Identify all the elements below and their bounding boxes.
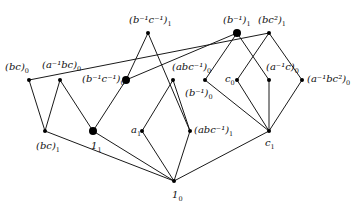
node-b-1c-1_1	[146, 31, 150, 35]
node-label-abc-1_1: (abc⁻¹)1	[194, 125, 233, 138]
edge-c0-c1	[237, 80, 269, 131]
node-label-c0: c0	[225, 74, 235, 87]
node-bc2_1	[267, 31, 271, 35]
node-a-1bc2_0	[300, 78, 304, 82]
edge-a-1bc0-one1	[60, 80, 93, 131]
graph-diagram: (bc)0(a⁻¹bc)0(bc)111(b⁻¹c⁻¹)1(b⁻¹c⁻¹)0(a…	[0, 0, 356, 207]
node-c1	[267, 129, 271, 133]
edge-a-1bc0-bc1	[45, 80, 60, 131]
node-bc0	[27, 78, 31, 82]
node-b-1_1	[233, 29, 241, 37]
node-label-b-1c-1_0: (b⁻¹c⁻¹)0	[82, 74, 125, 87]
node-label-bc2_1: (bc²)1	[258, 15, 286, 28]
node-one1	[89, 127, 97, 135]
node-label-a1: a1	[131, 125, 141, 138]
node-a-1bc0	[58, 78, 62, 82]
node-label-bc1: (bc)1	[36, 141, 60, 154]
node-label-bc0: (bc)0	[5, 62, 29, 75]
edge-c1-one0	[174, 131, 269, 181]
node-label-b-1_1: (b⁻¹)1	[223, 15, 251, 28]
node-b-1_0	[203, 78, 207, 82]
edge-bc1-one0	[45, 131, 174, 181]
graph-canvas	[0, 0, 356, 207]
node-one0	[172, 179, 176, 183]
node-c0	[235, 78, 239, 82]
node-label-a-1c0: (a⁻¹c)0	[266, 62, 299, 75]
edge-abc-1_0-a1	[142, 80, 173, 131]
node-label-one1: 11	[91, 141, 102, 154]
node-label-b-1c-1_1: (b⁻¹c⁻¹)1	[129, 15, 172, 28]
edge-a-1bc2_0-c1	[269, 80, 302, 131]
edge-a1-one0	[142, 131, 174, 181]
node-label-c1: c1	[265, 138, 275, 151]
node-label-one0: 10	[172, 190, 183, 203]
edge-one1-one0	[93, 131, 174, 181]
edge-b-1c-1_1-abc-1_1	[148, 33, 190, 131]
edge-b-1c-1_0-one1	[93, 80, 126, 131]
node-abc-1_1	[188, 129, 192, 133]
node-a-1c0	[267, 78, 271, 82]
node-bc1	[43, 129, 47, 133]
edge-bc0-bc2_1	[29, 33, 269, 80]
node-label-abc-1_0: (abc⁻¹)0	[172, 62, 211, 75]
edge-b-1c-1_0-b-1c-1_1	[126, 33, 148, 80]
node-label-a-1bc0: (a⁻¹bc)0	[42, 60, 81, 73]
node-abc-1_0	[171, 78, 175, 82]
node-label-a-1bc2_0: (a⁻¹bc²)0	[307, 74, 350, 87]
node-label-b-1_0: (b⁻¹)0	[185, 88, 213, 101]
edge-bc0-bc1	[29, 80, 45, 131]
